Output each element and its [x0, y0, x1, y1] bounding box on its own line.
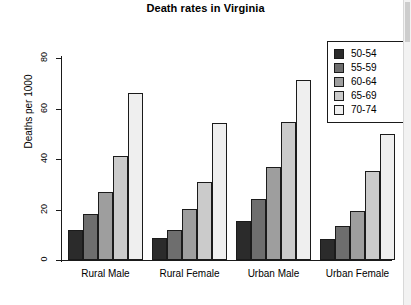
bar — [197, 182, 212, 260]
x-axis-group-label: Urban Male — [228, 268, 319, 279]
bar — [212, 123, 227, 260]
y-tick-label: 80 — [39, 46, 49, 68]
y-tick-mark — [56, 159, 61, 160]
y-tick-label: 20 — [39, 198, 49, 220]
bar — [167, 230, 182, 260]
legend-item: 65-69 — [334, 89, 398, 103]
chart-title: Death rates in Virginia — [0, 2, 411, 14]
y-tick-label: 60 — [39, 97, 49, 119]
legend-label: 70-74 — [351, 105, 377, 115]
y-tick-mark — [56, 210, 61, 211]
x-axis-group-label: Rural Female — [144, 268, 235, 279]
legend-item: 70-74 — [334, 103, 398, 117]
bar — [251, 199, 266, 260]
y-tick-mark — [56, 109, 61, 110]
y-tick-label: 0 — [39, 248, 49, 270]
bar — [296, 80, 311, 260]
legend-item: 50-54 — [334, 47, 398, 61]
legend-label: 55-59 — [351, 63, 377, 73]
x-axis-group-label: Urban Female — [312, 268, 403, 279]
bar — [320, 239, 335, 260]
y-axis-label: Deaths per 1000 — [23, 52, 34, 172]
legend-label: 60-64 — [351, 77, 377, 87]
chart-legend: 50-5455-5960-6465-6970-74 — [327, 41, 404, 123]
legend-label: 50-54 — [351, 49, 377, 59]
y-tick-mark — [56, 260, 61, 261]
legend-label: 65-69 — [351, 91, 377, 101]
legend-swatch-icon — [334, 105, 344, 115]
legend-swatch-icon — [334, 91, 344, 101]
legend-swatch-icon — [334, 63, 344, 73]
bar — [365, 171, 380, 260]
y-tick-label: 40 — [39, 147, 49, 169]
scrollbar-thumb[interactable] — [405, 2, 410, 42]
legend-swatch-icon — [334, 49, 344, 59]
bar — [152, 238, 167, 260]
bar — [236, 221, 251, 260]
legend-item: 60-64 — [334, 75, 398, 89]
bar — [68, 230, 83, 260]
bar — [128, 93, 143, 260]
bar — [182, 209, 197, 260]
y-tick-mark — [56, 58, 61, 59]
legend-swatch-icon — [334, 77, 344, 87]
bar — [83, 214, 98, 260]
bar — [335, 226, 350, 260]
bar — [350, 211, 365, 260]
legend-item: 55-59 — [334, 61, 398, 75]
bar — [281, 122, 296, 260]
bar — [380, 134, 395, 260]
bar — [266, 167, 281, 260]
y-axis-line — [61, 56, 62, 262]
bar — [113, 156, 128, 260]
bar — [98, 192, 113, 260]
chart-canvas: Death rates in Virginia Deaths per 1000 … — [0, 0, 411, 305]
x-axis-line — [62, 260, 392, 261]
x-axis-group-label: Rural Male — [60, 268, 151, 279]
window-scrollbar[interactable] — [403, 0, 411, 305]
